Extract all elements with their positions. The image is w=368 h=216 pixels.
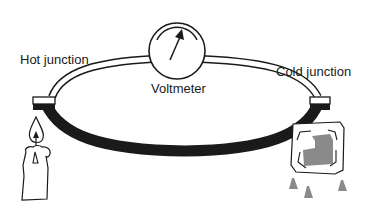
ice-cube-icon — [291, 122, 344, 174]
lower-wire — [46, 104, 318, 151]
voltmeter-label: Voltmeter — [151, 82, 206, 95]
melt-drips — [289, 178, 347, 198]
thermocouple-diagram: Hot junction Voltmeter Cold junction — [0, 0, 368, 216]
hot-junction — [33, 97, 55, 110]
cold-junction-label: Cold junction — [276, 65, 351, 78]
cold-junction — [310, 97, 330, 110]
hot-junction-label: Hot junction — [20, 53, 89, 66]
voltmeter — [149, 23, 205, 79]
candle-icon — [22, 117, 50, 200]
